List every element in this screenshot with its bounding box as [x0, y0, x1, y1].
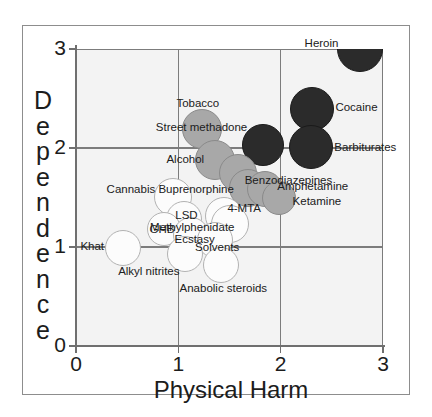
bubble-heroin[interactable]: [337, 49, 383, 72]
point-label-anabolic-steroids: Anabolic steroids: [180, 282, 268, 294]
point-label-cannabis: Cannabis: [107, 183, 156, 195]
point-label-solvents: Solvents: [195, 241, 239, 253]
y-tick-mark: [69, 246, 76, 248]
x-axis-line: [73, 345, 385, 347]
y-tick-label: 0: [44, 333, 66, 357]
y-tick-mark: [69, 147, 76, 149]
y-axis-title: Dependence: [26, 88, 60, 343]
point-label-4-mta: 4-MTA: [227, 202, 261, 214]
y-axis-title-letter: e: [26, 165, 60, 191]
point-label-lsd: LSD: [175, 209, 197, 221]
bubble-khat[interactable]: [105, 230, 141, 266]
y-axis-title-letter: n: [26, 267, 60, 293]
point-label-barbiturates: Barbiturates: [334, 141, 396, 153]
gridline-vertical: [382, 49, 383, 346]
point-label-amphetamine: Amphetamine: [277, 180, 348, 192]
point-label-cocaine: Cocaine: [335, 101, 377, 113]
y-axis-title-letter: D: [26, 88, 60, 114]
y-tick-label: 3: [44, 36, 66, 60]
y-axis-line: [75, 45, 77, 348]
point-label-tobacco: Tobacco: [176, 97, 219, 109]
bubble-barbiturates[interactable]: [289, 125, 333, 169]
x-tick-label: 0: [64, 352, 88, 376]
point-label-alkyl-nitrites: Alkyl nitrites: [118, 265, 179, 277]
x-tick-label: 2: [269, 352, 293, 376]
y-tick-label: 1: [44, 234, 66, 258]
y-axis-title-letter: c: [26, 292, 60, 318]
point-label-ghb: GHB: [150, 223, 175, 235]
x-axis-title: Physical Harm: [76, 376, 386, 404]
y-axis-title-letter: n: [26, 190, 60, 216]
x-tick-label: 1: [166, 352, 190, 376]
point-label-street-methadone: Street methadone: [156, 121, 247, 133]
point-label-alcohol: Alcohol: [166, 153, 204, 165]
point-label-buprenorphine: Buprenorphine: [158, 183, 233, 195]
point-label-ketamine: Ketamine: [293, 195, 342, 207]
point-label-heroin: Heroin: [305, 37, 339, 49]
y-tick-label: 2: [44, 135, 66, 159]
x-tick-label: 3: [371, 352, 395, 376]
y-tick-mark: [69, 48, 76, 50]
point-label-khat: Khat: [80, 240, 104, 252]
